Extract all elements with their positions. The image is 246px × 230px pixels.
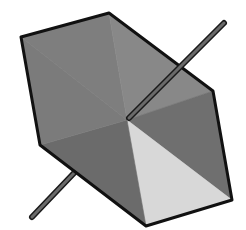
axis-rod-back-segment bbox=[32, 172, 75, 217]
hexagon-axis-diagram bbox=[0, 0, 246, 230]
diagram-canvas bbox=[0, 0, 246, 230]
